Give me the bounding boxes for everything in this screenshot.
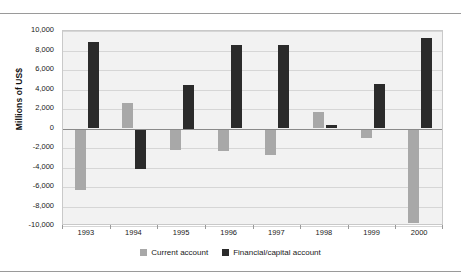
y-tick-label: 2,000 (35, 104, 54, 112)
y-tick-label: -4,000 (33, 163, 54, 171)
bar-current-account-1997 (265, 129, 276, 155)
y-tick-label: 4,000 (35, 85, 54, 93)
top-divider-rule (0, 13, 461, 14)
bar-current-account-1993 (75, 129, 86, 190)
bar-financial-capital-account-1997 (278, 45, 289, 129)
legend-item-financial-capital-account[interactable]: Financial/capital account (222, 248, 321, 257)
legend-swatch-icon (222, 249, 229, 256)
x-tick-label-1998: 1998 (304, 228, 344, 237)
bar-current-account-1994 (122, 103, 133, 128)
gridline (63, 90, 442, 91)
x-axis-tick-labels: 19931994199519961997199819992000 (62, 228, 443, 242)
bar-current-account-1998 (313, 112, 324, 129)
bottom-divider-rule (0, 271, 461, 272)
legend-label: Current account (151, 248, 208, 257)
legend-swatch-icon (140, 249, 147, 256)
gridline (63, 31, 442, 32)
x-tick-label-1999: 1999 (352, 228, 392, 237)
bar-financial-capital-account-1994 (135, 129, 146, 170)
chart-legend: Current accountFinancial/capital account (0, 248, 461, 257)
y-tick-label: 10,000 (31, 26, 54, 34)
x-tick-label-1996: 1996 (209, 228, 249, 237)
y-tick-label: -2,000 (33, 143, 54, 151)
gridline (63, 109, 442, 110)
y-axis-tick-labels: 10,0008,0006,0004,0002,0000-2,000-4,000-… (0, 0, 58, 278)
x-tick-label-1994: 1994 (113, 228, 153, 237)
x-tick-label-1995: 1995 (161, 228, 201, 237)
legend-label: Financial/capital account (233, 248, 321, 257)
plot-area (62, 30, 443, 225)
gridline (63, 70, 442, 71)
x-tick-label-1997: 1997 (256, 228, 296, 237)
y-tick-label: -6,000 (33, 182, 54, 190)
chart-figure: Millions of US$ 10,0008,0006,0004,0002,0… (0, 0, 461, 278)
y-tick-label: -10,000 (29, 221, 54, 229)
bar-financial-capital-account-1998 (326, 125, 337, 129)
x-tick-label-2000: 2000 (399, 228, 439, 237)
y-tick-label: 8,000 (35, 46, 54, 54)
gridline (63, 51, 442, 52)
x-tick-label-1993: 1993 (66, 228, 106, 237)
gridline (63, 148, 442, 149)
legend-item-current-account[interactable]: Current account (140, 248, 208, 257)
y-tick-label: 6,000 (35, 65, 54, 73)
bar-financial-capital-account-1993 (88, 42, 99, 129)
bar-current-account-1995 (170, 129, 181, 150)
bar-financial-capital-account-1995 (183, 85, 194, 129)
y-tick-label: 0 (50, 124, 54, 132)
zero-axis-line (63, 129, 442, 130)
bar-financial-capital-account-1999 (374, 84, 385, 129)
bar-current-account-2000 (408, 129, 419, 224)
bar-financial-capital-account-1996 (231, 45, 242, 129)
y-tick-label: -8,000 (33, 202, 54, 210)
gridline (63, 168, 442, 169)
bar-current-account-1996 (218, 129, 229, 151)
gridline (63, 187, 442, 188)
bar-financial-capital-account-2000 (421, 38, 432, 129)
gridline (63, 207, 442, 208)
